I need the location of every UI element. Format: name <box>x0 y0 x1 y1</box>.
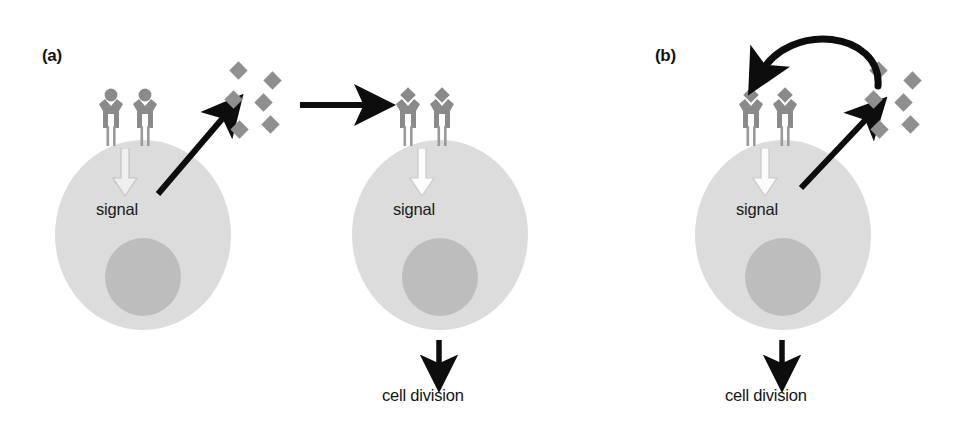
cell-division-arrow-a <box>424 338 454 386</box>
ligand-molecule <box>870 120 888 138</box>
nucleus-b1 <box>745 238 821 316</box>
ligand-molecule <box>901 115 919 133</box>
panel-a-label: (a) <box>42 46 62 66</box>
ligand-molecule <box>263 71 281 89</box>
panel-b-label: (b) <box>655 46 676 66</box>
ligand-molecule <box>254 93 272 111</box>
ligand-molecule <box>224 90 242 108</box>
ligand-molecule <box>229 61 247 79</box>
ligand-molecule <box>230 120 248 138</box>
ligand-molecule <box>261 115 279 133</box>
signal-arrow-a1 <box>110 148 140 200</box>
cell-division-arrow-b <box>767 338 797 386</box>
signal-label-a1: signal <box>96 200 138 219</box>
signal-label-a2: signal <box>393 200 435 219</box>
panel-a-paracrine: (a) signal <box>0 0 600 434</box>
receptor-unbound-a1-left <box>96 88 126 146</box>
signal-label-b1: signal <box>736 200 778 219</box>
autocrine-feedback-arrow-b <box>730 22 910 112</box>
transfer-arrow-a <box>298 92 390 118</box>
nucleus-a2 <box>402 238 478 316</box>
panel-b-autocrine: (b) signal <box>600 0 965 434</box>
signal-arrow-b1 <box>750 148 780 200</box>
cell-division-label-a: cell division <box>382 386 464 405</box>
receptor-bound-a2-right <box>427 88 457 146</box>
cell-division-label-b: cell division <box>725 386 807 405</box>
signal-arrow-a2 <box>407 148 437 200</box>
ligand-cluster-a <box>224 60 290 138</box>
signaling-diagram: (a) signal <box>0 0 965 434</box>
receptor-bound-a2-left <box>393 88 423 146</box>
nucleus-a1 <box>105 238 181 316</box>
